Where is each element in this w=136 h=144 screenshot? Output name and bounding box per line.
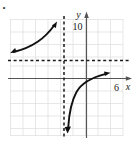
y-axis-label: y	[75, 9, 81, 20]
coordinate-graph-svg: y 10 6 x •	[0, 0, 136, 144]
graph-figure: y 10 6 x •	[0, 0, 136, 144]
figure-corner-mark: •	[3, 3, 6, 13]
y-tick-label-10: 10	[73, 21, 83, 32]
x-axis-label: x	[125, 81, 131, 92]
x-tick-label-6: 6	[114, 82, 119, 93]
